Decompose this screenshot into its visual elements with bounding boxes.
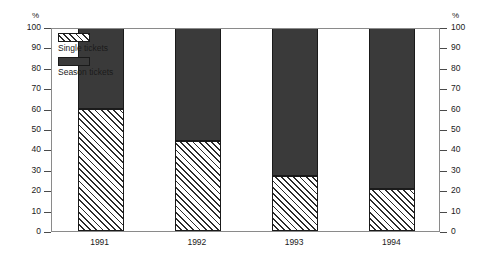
y-tick-label-left: 10 [32,207,41,216]
y-tick-label-right: 40 [451,145,460,154]
y-tick-mark-left [44,69,51,70]
bar-segment-single-1994 [369,189,415,231]
y-tick-mark-left [44,89,51,90]
legend-swatch-solid [58,57,90,66]
bar-segment-season-1994 [369,28,415,189]
y-tick-label-right: 70 [451,84,460,93]
y-tick-label-left: 40 [32,145,41,154]
y-tick-mark-right [440,110,447,111]
y-tick-label-left: 50 [32,125,41,134]
y-tick-mark-left [44,110,51,111]
y-tick-mark-left [44,130,51,131]
x-tick-label-1992: 1992 [167,237,227,247]
y-tick-mark-right [440,89,447,90]
y-tick-label-left: 90 [32,43,41,52]
bar-segment-season-1992 [175,28,221,141]
legend-swatch-hatch [58,33,90,42]
y-tick-label-left: 20 [32,186,41,195]
y-tick-label-left: 0 [36,227,41,236]
bar-segment-single-1992 [175,141,221,231]
x-tick-label-1993: 1993 [264,237,324,247]
legend-entry-1: Single tickets [58,33,113,54]
y-axis-unit-right: % [452,11,459,20]
y-tick-mark-left [44,48,51,49]
y-tick-mark-right [440,48,447,49]
legend-label-2: Season tickets [58,67,113,78]
y-tick-label-left: 100 [27,23,41,32]
y-tick-mark-right [440,232,447,233]
bar-group-1994 [369,28,415,231]
y-tick-label-right: 50 [451,125,460,134]
x-tick-label-1994: 1994 [361,237,421,247]
y-tick-mark-left [44,171,51,172]
y-tick-mark-left [44,232,51,233]
y-tick-mark-right [440,130,447,131]
y-tick-label-right: 60 [451,105,460,114]
y-tick-mark-left [44,191,51,192]
bar-segment-single-1993 [272,176,318,231]
chart-legend: Single ticketsSeason tickets [58,33,113,81]
y-tick-mark-right [440,191,447,192]
y-tick-mark-left [44,28,51,29]
y-tick-label-right: 10 [451,207,460,216]
bar-group-1992 [175,28,221,231]
y-tick-label-right: 80 [451,64,460,73]
y-tick-label-left: 30 [32,166,41,175]
y-tick-label-right: 30 [451,166,460,175]
chart-figure: % % 001010202030304040505060607070808090… [0,0,492,257]
y-tick-mark-left [44,150,51,151]
x-tick-label-1991: 1991 [70,237,130,247]
y-tick-mark-right [440,212,447,213]
y-tick-mark-right [440,69,447,70]
y-tick-mark-right [440,150,447,151]
bar-segment-single-1991 [78,109,124,231]
y-axis-unit-left: % [32,11,39,20]
y-tick-label-right: 100 [451,23,465,32]
y-tick-mark-right [440,28,447,29]
y-tick-label-right: 90 [451,43,460,52]
y-tick-mark-left [44,212,51,213]
y-tick-label-right: 0 [451,227,456,236]
legend-entry-2: Season tickets [58,57,113,78]
y-tick-label-left: 80 [32,64,41,73]
y-tick-label-left: 60 [32,105,41,114]
y-tick-label-left: 70 [32,84,41,93]
bar-group-1993 [272,28,318,231]
legend-label-1: Single tickets [58,43,113,54]
y-tick-label-right: 20 [451,186,460,195]
y-tick-mark-right [440,171,447,172]
bar-segment-season-1993 [272,28,318,176]
